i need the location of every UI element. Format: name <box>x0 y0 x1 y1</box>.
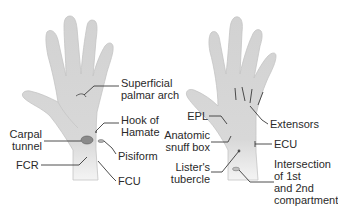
label-epl: EPL <box>178 110 208 122</box>
intersection-marker <box>233 167 240 171</box>
label-carpal-tunnel: Carpal tunnel <box>4 128 42 152</box>
pisiform-marker <box>98 140 104 143</box>
label-ecu: ECU <box>274 138 297 150</box>
label-extensors: Extensors <box>270 118 319 130</box>
label-fcr: FCR <box>16 159 39 171</box>
label-intersection-compartments: Intersection of 1st and 2nd compartment <box>274 158 338 206</box>
label-superficial-palmar-arch: Superficial palmar arch <box>121 77 179 101</box>
label-fcu: FCU <box>118 175 141 187</box>
label-anatomic-snuff-box: Anatomic snuff box <box>160 129 210 153</box>
label-listers-tubercle: Lister's tubercle <box>164 161 210 185</box>
label-hook-of-hamate: Hook of Hamate <box>121 114 160 138</box>
label-pisiform: Pisiform <box>118 150 158 162</box>
dorsal-hand <box>186 17 276 180</box>
palmar-hand <box>22 16 113 180</box>
carpal-tunnel-marker <box>81 136 93 144</box>
